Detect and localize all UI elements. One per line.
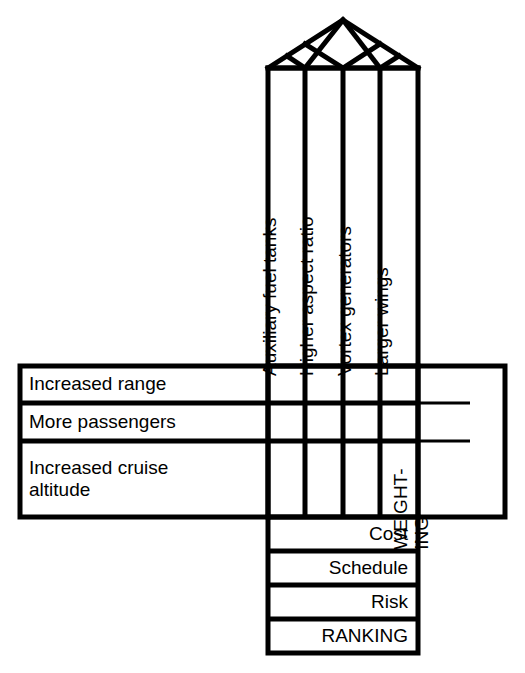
roof-diag-down-1 — [343, 20, 380, 68]
bottom-label-risk: Risk — [268, 585, 418, 619]
roof-diag-up-1 — [305, 20, 343, 68]
column-label-vortex-generators: Vortex generators — [334, 96, 360, 376]
column-label-auxiliary-fuel-tanks: Auxiliary fuel tanks — [259, 96, 285, 376]
bottom-label-ranking: RANKING — [268, 619, 418, 653]
column-label-larger-wings: Larger wings — [371, 96, 397, 376]
row-label-increased-cruise-altitude: Increased cruise altitude — [20, 441, 268, 517]
column-label-higher-aspect-ratio: Higher aspect ratio — [296, 96, 322, 376]
house-of-quality-diagram: Auxiliary fuel tanks Higher aspect ratio… — [0, 0, 525, 673]
bottom-label-cost: Cost — [268, 517, 418, 551]
row-label-more-passengers: More passengers — [20, 403, 268, 441]
row-label-increased-range: Increased range — [20, 366, 268, 403]
bottom-label-schedule: Schedule — [268, 551, 418, 585]
correlation-roof — [268, 20, 418, 68]
